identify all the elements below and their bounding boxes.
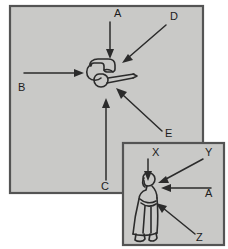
label-x: X bbox=[152, 146, 160, 158]
label-c: C bbox=[101, 180, 109, 192]
label-d: D bbox=[170, 10, 178, 22]
label-b: B bbox=[18, 81, 25, 93]
label-y-inset: Y bbox=[205, 146, 213, 158]
diagram-figure: A B C D E bbox=[0, 0, 228, 249]
label-a-inset: A bbox=[205, 187, 213, 199]
label-e: E bbox=[165, 127, 172, 139]
label-a: A bbox=[114, 7, 122, 19]
diagram-canvas: A B C D E bbox=[0, 0, 228, 249]
inset-panel: X Y A Z bbox=[123, 143, 224, 245]
label-z: Z bbox=[196, 231, 203, 243]
